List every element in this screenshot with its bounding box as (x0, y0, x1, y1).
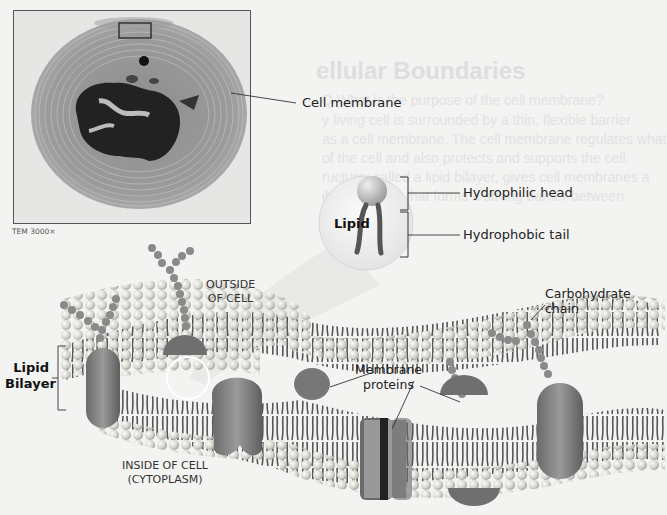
channel-protein-left (212, 378, 262, 456)
hydrophobic-tail-label: Hydrophobic tail (463, 227, 570, 242)
inside-of-cell-label: INSIDE OF CELL (CYTOPLASM) (122, 459, 208, 487)
globular-protein (294, 368, 330, 400)
hydrophilic-head-label: Hydrophilic head (463, 185, 573, 200)
glycoprotein-right (537, 383, 583, 479)
hydrophilic-head-icon (357, 176, 387, 206)
lipid-label: Lipid (334, 216, 370, 231)
carbohydrate-chain-label: Carbohydrate chain (545, 286, 631, 316)
channel-protein-center (360, 418, 412, 500)
cell-membrane-label: Cell membrane (302, 95, 402, 110)
lipid-bilayer-label: Lipid Bilayer (5, 360, 49, 392)
cell-membrane-diagram: ellular Boundaries Q What is the purpose… (0, 0, 667, 515)
integral-protein-left (86, 348, 120, 428)
cell-membrane-leader-line (231, 93, 296, 103)
peripheral-protein-bottom (448, 488, 500, 506)
peripheral-protein-right (440, 375, 488, 395)
membrane-illustration (0, 0, 667, 515)
membrane-proteins-label: Membrane proteins (355, 362, 422, 392)
outside-of-cell-label: OUTSIDE OF CELL (206, 278, 255, 306)
